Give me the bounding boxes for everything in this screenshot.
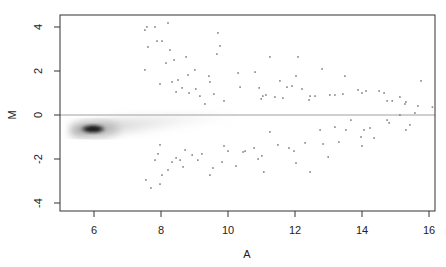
data-point: [373, 137, 375, 139]
data-point: [154, 159, 156, 161]
data-point: [209, 81, 211, 83]
data-point: [213, 93, 215, 95]
data-point: [217, 32, 219, 34]
data-point: [304, 142, 306, 144]
data-point: [254, 71, 256, 73]
y-tick-label: 0: [32, 112, 44, 118]
plot-frame: [60, 15, 435, 211]
data-point: [167, 22, 169, 24]
data-point: [171, 81, 173, 83]
data-point: [212, 167, 214, 169]
data-point: [242, 151, 244, 153]
data-point: [295, 162, 297, 164]
data-point: [279, 80, 281, 82]
data-point: [253, 147, 255, 149]
data-point: [184, 149, 186, 151]
data-point: [391, 100, 393, 102]
data-point: [159, 183, 161, 185]
data-point: [417, 105, 419, 107]
data-point: [263, 171, 265, 173]
data-point: [432, 106, 434, 108]
data-point: [260, 98, 262, 100]
data-point: [405, 101, 407, 103]
data-point: [344, 75, 346, 77]
data-point: [262, 95, 264, 97]
data-point: [244, 150, 246, 152]
data-point: [365, 90, 367, 92]
data-point: [269, 131, 271, 133]
data-point: [282, 97, 284, 99]
y-tick-label: 2: [32, 68, 44, 74]
data-point: [378, 90, 380, 92]
x-tick-label: 14: [356, 224, 368, 236]
data-point: [175, 91, 177, 93]
data-point: [309, 95, 311, 97]
data-point: [181, 87, 183, 89]
data-point: [188, 92, 190, 94]
data-point: [156, 40, 158, 42]
data-point: [274, 96, 276, 98]
data-point: [383, 92, 385, 94]
data-point: [159, 144, 161, 146]
data-point: [265, 94, 267, 96]
data-point: [144, 69, 146, 71]
data-point: [154, 26, 156, 28]
data-point: [297, 56, 299, 58]
plot-area: [60, 22, 435, 189]
data-point: [157, 153, 159, 155]
data-point: [161, 40, 163, 42]
data-point: [146, 26, 148, 28]
data-point: [319, 129, 321, 131]
data-point: [175, 157, 177, 159]
data-point: [409, 124, 411, 126]
data-point: [386, 119, 388, 121]
data-point: [169, 49, 171, 51]
x-tick-label: 16: [423, 224, 435, 236]
data-point: [301, 88, 303, 90]
data-point: [261, 155, 263, 157]
y-tick-label: -2: [32, 154, 44, 164]
data-point: [405, 129, 407, 131]
data-point: [145, 179, 147, 181]
data-point: [327, 156, 329, 158]
y-axis-title: M: [6, 110, 18, 119]
data-point: [334, 94, 336, 96]
x-tick-label: 8: [158, 224, 164, 236]
data-point: [404, 103, 406, 105]
data-point: [185, 56, 187, 58]
data-point: [161, 174, 163, 176]
data-point: [177, 79, 179, 81]
data-point: [223, 100, 225, 102]
data-point: [221, 161, 223, 163]
data-point: [167, 169, 169, 171]
x-tick-label: 6: [91, 224, 97, 236]
data-point: [182, 166, 184, 168]
data-point: [288, 147, 290, 149]
data-point: [258, 87, 260, 89]
data-point: [237, 72, 239, 74]
x-tick-label: 12: [289, 224, 301, 236]
data-point: [295, 75, 297, 77]
y-tick-label: 4: [32, 24, 44, 30]
data-point: [322, 143, 324, 145]
data-point: [219, 45, 221, 47]
x-axis: 6810121416: [91, 211, 435, 236]
data-point: [235, 165, 237, 167]
data-point: [144, 29, 146, 31]
data-point: [357, 89, 359, 91]
data-point: [194, 69, 196, 71]
data-point: [173, 59, 175, 61]
data-point: [420, 80, 422, 82]
data-point: [187, 74, 189, 76]
data-point: [363, 129, 365, 131]
data-point: [208, 75, 210, 77]
data-point: [293, 150, 295, 152]
data-point: [291, 85, 293, 87]
data-point: [360, 136, 362, 138]
data-point: [150, 187, 152, 189]
data-point: [309, 171, 311, 173]
data-point: [414, 112, 416, 114]
data-point: [334, 126, 336, 128]
data-point: [361, 145, 363, 147]
y-tick-label: -4: [32, 198, 44, 208]
